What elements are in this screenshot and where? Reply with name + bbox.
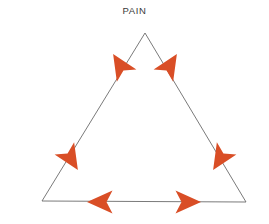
arrow-right-edge-upper [154, 48, 187, 82]
arrowhead-layer [55, 48, 237, 214]
arrow-right-edge-lower [203, 142, 236, 176]
triangle-outline [42, 33, 246, 202]
arrow-bottom-edge-left [87, 191, 113, 214]
triangle-diagram [0, 0, 269, 224]
arrow-left-edge-lower [55, 142, 88, 176]
arrow-left-edge-upper [103, 48, 136, 82]
figure-canvas: PAIN [0, 0, 269, 224]
